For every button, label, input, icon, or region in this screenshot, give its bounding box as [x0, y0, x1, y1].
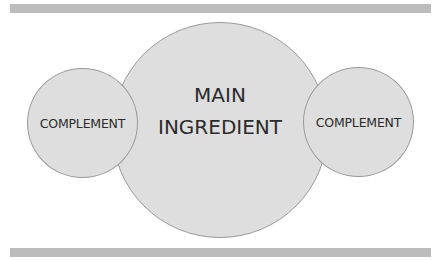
left-complement-label: COMPLEMENT [40, 116, 125, 131]
bottom-divider-bar [10, 248, 431, 257]
top-divider-bar [10, 4, 431, 13]
main-label-line2: INGREDIENT [158, 111, 282, 143]
main-label-line1: MAIN [158, 79, 282, 111]
left-complement-circle: COMPLEMENT [27, 68, 138, 178]
right-complement-label: COMPLEMENT [316, 115, 401, 130]
main-ingredient-circle: MAIN INGREDIENT [112, 22, 328, 238]
main-ingredient-label: MAIN INGREDIENT [158, 79, 282, 143]
right-complement-circle: COMPLEMENT [303, 67, 414, 177]
